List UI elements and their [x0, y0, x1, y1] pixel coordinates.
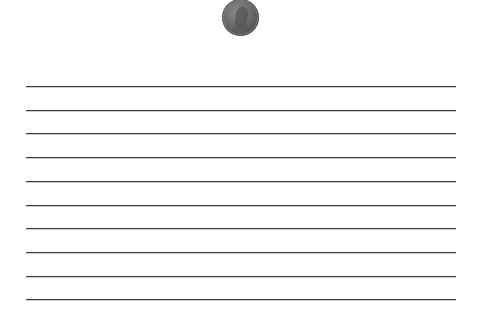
- lincoln-profile-icon: [222, 0, 259, 36]
- ruled-line: [26, 276, 456, 277]
- ruled-line: [26, 133, 456, 134]
- ruled-line: [26, 110, 456, 111]
- ruled-line: [26, 86, 456, 87]
- ruled-line: [26, 205, 456, 206]
- ruled-line: [26, 228, 456, 229]
- penny-coin-icon: [222, 0, 259, 36]
- ruled-line: [26, 181, 456, 182]
- ruled-line: [26, 157, 456, 158]
- ruled-line: [26, 252, 456, 253]
- ruled-line: [26, 299, 456, 300]
